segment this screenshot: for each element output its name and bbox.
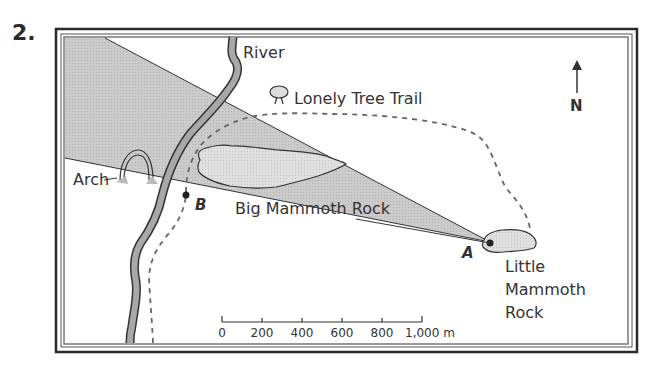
arch-label: Arch	[73, 170, 109, 189]
trail-label: Lonely Tree Trail	[294, 89, 423, 108]
river-label: River	[243, 43, 285, 62]
scale-tick-1000: 1,000 m	[405, 326, 455, 340]
big-mammoth-rock-label: Big Mammoth Rock	[235, 199, 391, 218]
scale-tick-0: 0	[218, 326, 226, 340]
little-mammoth-rock-label-2: Mammoth	[505, 280, 586, 299]
point-b-label: B	[195, 196, 206, 214]
scale-tick-800: 800	[371, 326, 394, 340]
scale-tick-400: 400	[291, 326, 314, 340]
north-label: N	[570, 97, 583, 115]
point-a-label: A	[461, 244, 474, 262]
map-diagram: 0 200 400 600 800 1,000 m River Lonely T…	[0, 0, 659, 375]
point-b-marker	[183, 192, 190, 199]
little-mammoth-rock-label-3: Rock	[505, 303, 544, 322]
scale-tick-600: 600	[331, 326, 354, 340]
scale-tick-200: 200	[251, 326, 274, 340]
little-mammoth-rock-label-1: Little	[505, 257, 545, 276]
